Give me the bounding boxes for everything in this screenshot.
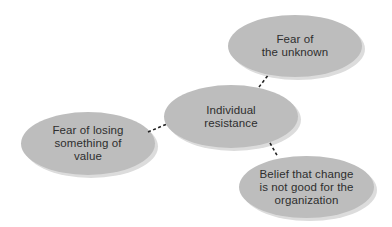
node-label: Fear of the unknown bbox=[262, 33, 328, 59]
connector-center-to-fear-losing-value bbox=[148, 124, 167, 132]
center-node-label: Individual resistance bbox=[204, 104, 257, 130]
node-label: Belief that change is not good for the o… bbox=[260, 168, 354, 207]
connector-center-to-belief bbox=[270, 143, 278, 157]
node-label: Fear of losing something of value bbox=[52, 124, 123, 163]
resistance-diagram: Fear of the unknown Individual resistanc… bbox=[0, 0, 392, 227]
connector-center-to-fear-unknown bbox=[259, 74, 269, 87]
